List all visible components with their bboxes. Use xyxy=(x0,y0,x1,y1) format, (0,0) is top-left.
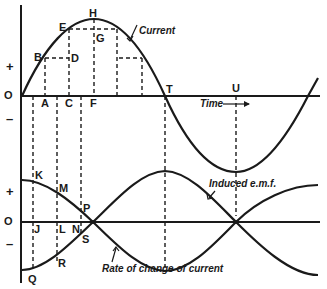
crossing-point-2 xyxy=(234,220,238,224)
point-e: E xyxy=(59,22,66,33)
point-n: N xyxy=(72,224,80,235)
upper-minus-sign: – xyxy=(6,112,13,125)
point-d: D xyxy=(71,53,79,64)
point-a: A xyxy=(41,98,49,109)
crossing-point-1 xyxy=(91,220,95,224)
point-t: T xyxy=(166,84,173,95)
current-label: Current xyxy=(139,26,175,36)
induced-emf-label: Induced e.m.f. xyxy=(209,179,276,189)
point-b: B xyxy=(34,52,42,63)
upper-origin-label: O xyxy=(4,90,13,101)
point-j: J xyxy=(34,224,40,235)
point-c: C xyxy=(65,98,73,109)
current-label-arrow xyxy=(130,25,137,40)
diagram: O + – B D E H G A C F T U Current Time O… xyxy=(0,0,327,289)
point-m: M xyxy=(59,183,68,194)
point-k: K xyxy=(35,170,43,181)
time-arrowhead xyxy=(244,101,250,107)
point-h: H xyxy=(89,8,97,19)
point-g: G xyxy=(96,33,105,44)
point-q: Q xyxy=(28,274,37,285)
point-f: F xyxy=(90,98,97,109)
upper-plus-sign: + xyxy=(6,60,14,73)
point-u: U xyxy=(232,83,240,94)
point-l: L xyxy=(59,224,66,235)
lower-minus-sign: – xyxy=(6,237,13,250)
point-s: S xyxy=(82,234,89,245)
diagram-graphics xyxy=(0,0,327,289)
lower-plus-sign: + xyxy=(6,185,14,198)
rate-of-change-label: Rate of change of current xyxy=(102,264,223,274)
point-r: R xyxy=(58,258,66,269)
point-p: P xyxy=(83,203,90,214)
time-label: Time xyxy=(200,99,223,109)
lower-origin-label: O xyxy=(4,216,13,227)
